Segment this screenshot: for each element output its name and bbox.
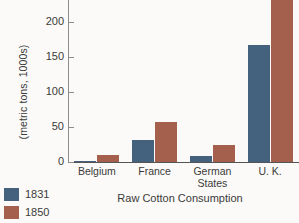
bar xyxy=(74,161,96,162)
bar-chart-figure: (metric tons, 1000s) 050100150200 Raw Co… xyxy=(0,0,299,223)
legend-label: 1831 xyxy=(25,188,49,200)
bar xyxy=(271,0,293,162)
y-axis-tick-mark xyxy=(68,22,74,23)
y-axis-tick-mark xyxy=(68,162,74,163)
legend-item: 1831 xyxy=(4,186,64,202)
bar xyxy=(155,122,177,163)
y-axis-tick-mark xyxy=(68,92,74,93)
y-axis-tick-mark xyxy=(68,57,74,58)
legend-item: 1850 xyxy=(4,204,64,220)
chart-legend: 18311850 xyxy=(4,186,64,222)
bar xyxy=(132,140,154,162)
legend-swatch-icon xyxy=(4,188,19,201)
y-axis-tick-mark xyxy=(68,127,74,128)
bar xyxy=(248,45,270,162)
y-axis-tick-label: 150 xyxy=(30,51,64,62)
y-axis-tick-label: 50 xyxy=(30,121,64,132)
x-axis-category-label: U. K. xyxy=(233,166,299,178)
legend-swatch-icon xyxy=(4,206,19,219)
plot-area xyxy=(68,0,299,162)
y-axis-tick-label: 0 xyxy=(30,156,64,167)
chart-title: Raw Cotton Consumption xyxy=(68,192,292,204)
bar xyxy=(213,145,235,162)
x-axis-line xyxy=(68,162,299,163)
legend-label: 1850 xyxy=(25,206,49,218)
bar xyxy=(97,155,119,162)
bar xyxy=(190,156,212,162)
y-axis-tick-labels: 050100150200 xyxy=(28,0,64,162)
y-axis-tick-label: 100 xyxy=(30,86,64,97)
y-axis-tick-label: 200 xyxy=(30,16,64,27)
